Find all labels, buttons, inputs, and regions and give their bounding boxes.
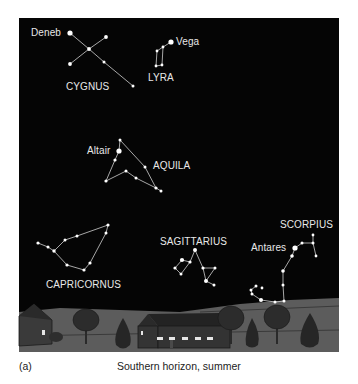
star-chart bbox=[0, 0, 358, 384]
star-altair bbox=[116, 148, 121, 153]
figure-caption: Southern horizon, summer bbox=[117, 360, 241, 372]
star-antares bbox=[292, 245, 297, 250]
constellation-label-capricornus: CAPRICORNUS bbox=[46, 279, 121, 290]
star-deneb bbox=[67, 30, 72, 35]
star-label-antares: Antares bbox=[251, 242, 286, 253]
constellation-label-lyra: LYRA bbox=[148, 72, 174, 83]
constellation-label-aquila: AQUILA bbox=[153, 160, 190, 171]
constellation-label-cygnus: CYGNUS bbox=[66, 81, 109, 92]
constellation-label-scorpius: SCORPIUS bbox=[280, 219, 333, 230]
house-long bbox=[138, 313, 230, 348]
star-label-altair: Altair bbox=[87, 145, 110, 156]
star-label-vega: Vega bbox=[176, 36, 199, 47]
panel-label: (a) bbox=[19, 360, 32, 372]
star-label-deneb: Deneb bbox=[31, 27, 61, 38]
constellation-label-sagittarius: SAGITTARIUS bbox=[160, 236, 227, 247]
star-vega bbox=[168, 39, 173, 44]
